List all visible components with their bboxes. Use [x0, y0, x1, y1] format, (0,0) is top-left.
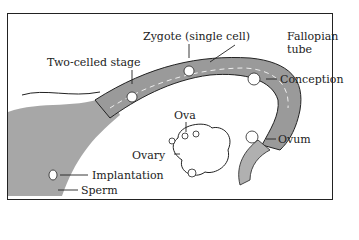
- fimbriae: [239, 140, 270, 185]
- two-celled-stage-icon: [127, 92, 137, 102]
- conception-icon: [248, 73, 260, 85]
- implantation-icon: [49, 170, 57, 180]
- label-sperm: Sperm: [81, 185, 118, 196]
- label-two-celled-stage: Two-celled stage: [47, 57, 141, 68]
- zygote-icon: [184, 66, 194, 76]
- label-ovary: Ovary: [132, 150, 165, 161]
- ovum-icon: [246, 131, 258, 143]
- label-ova: Ova: [174, 110, 196, 121]
- label-ovum: Ovum: [278, 134, 311, 145]
- label-zygote: Zygote (single cell): [143, 31, 250, 42]
- label-implantation: Implantation: [92, 170, 164, 181]
- ovary: [173, 124, 230, 175]
- label-fallopian-tube-line2: tube: [287, 44, 312, 55]
- label-conception: Conception: [280, 74, 343, 85]
- released-ovum-icon: [188, 169, 196, 177]
- label-fallopian-tube-line1: Fallopian: [287, 31, 338, 42]
